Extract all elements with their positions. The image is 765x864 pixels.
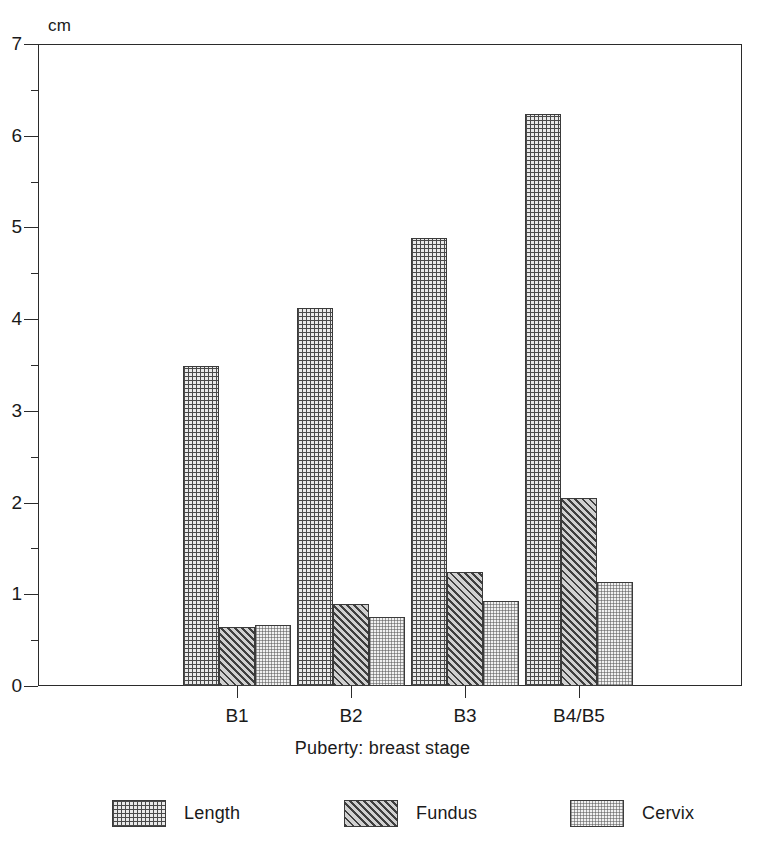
x-tick xyxy=(351,686,352,698)
bar-B4-B5-cervix xyxy=(597,582,633,686)
x-tick xyxy=(465,686,466,698)
y-tick-major xyxy=(24,319,38,320)
bar-B3-length xyxy=(411,238,447,686)
y-tick-minor xyxy=(31,548,38,549)
bar-B3-cervix xyxy=(483,601,519,686)
y-tick-minor xyxy=(31,182,38,183)
y-tick-minor xyxy=(31,273,38,274)
x-tick-label-B3: B3 xyxy=(453,705,476,727)
y-tick-major xyxy=(24,44,38,45)
y-tick-label: 2 xyxy=(0,492,22,514)
y-tick-label: 5 xyxy=(0,216,22,238)
legend-item-fundus: Fundus xyxy=(344,800,477,827)
y-tick-major xyxy=(24,227,38,228)
y-tick-major xyxy=(24,686,38,687)
legend-item-length: Length xyxy=(112,800,240,827)
x-tick-label-B4-B5: B4/B5 xyxy=(553,705,605,727)
bar-B4-B5-fundus xyxy=(561,498,597,686)
bar-B2-fundus xyxy=(333,604,369,686)
y-tick-major xyxy=(24,503,38,504)
legend-swatch-fundus xyxy=(344,800,398,827)
bar-B2-length xyxy=(297,308,333,686)
plot-area xyxy=(38,44,742,686)
y-tick-minor xyxy=(31,365,38,366)
y-tick-label: 0 xyxy=(0,675,22,697)
chart-legend: LengthFundusCervix xyxy=(0,800,765,850)
y-tick-label: 6 xyxy=(0,125,22,147)
y-tick-label: 7 xyxy=(0,33,22,55)
bar-B1-fundus xyxy=(219,627,255,686)
bar-B2-cervix xyxy=(369,617,405,686)
bar-B1-length xyxy=(183,366,219,686)
x-tick xyxy=(237,686,238,698)
legend-swatch-cervix xyxy=(570,800,624,827)
bar-B3-fundus xyxy=(447,572,483,686)
y-tick-major xyxy=(24,411,38,412)
x-axis-title: Puberty: breast stage xyxy=(0,738,765,759)
legend-swatch-length xyxy=(112,800,166,827)
y-tick-label: 4 xyxy=(0,308,22,330)
bar-B1-cervix xyxy=(255,625,291,686)
legend-item-cervix: Cervix xyxy=(570,800,694,827)
y-tick-minor xyxy=(31,90,38,91)
y-tick-minor xyxy=(31,457,38,458)
y-tick-label: 1 xyxy=(0,583,22,605)
bar-B4-B5-length xyxy=(525,114,561,686)
bar-chart: cm 01234567 B1B2B3B4/B5 Puberty: breast … xyxy=(0,0,765,864)
y-tick-minor xyxy=(31,640,38,641)
y-axis-unit-label: cm xyxy=(48,16,71,36)
x-tick xyxy=(579,686,580,698)
legend-label-fundus: Fundus xyxy=(416,803,477,824)
y-tick-label: 3 xyxy=(0,400,22,422)
legend-label-cervix: Cervix xyxy=(642,803,694,824)
y-tick-major xyxy=(24,136,38,137)
legend-label-length: Length xyxy=(184,803,240,824)
x-tick-label-B1: B1 xyxy=(225,705,248,727)
x-tick-label-B2: B2 xyxy=(339,705,362,727)
y-tick-major xyxy=(24,594,38,595)
